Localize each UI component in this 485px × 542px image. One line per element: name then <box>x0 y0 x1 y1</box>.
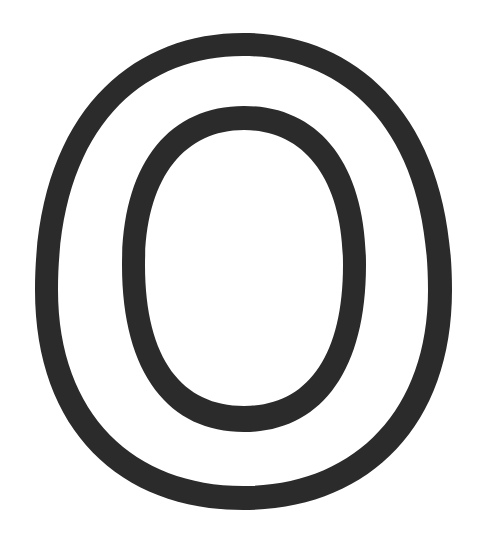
letter-o-figure: O <box>0 0 485 542</box>
outer-ring <box>35 33 452 510</box>
letter-o-outline-icon <box>0 0 485 542</box>
inner-ring <box>122 106 366 432</box>
